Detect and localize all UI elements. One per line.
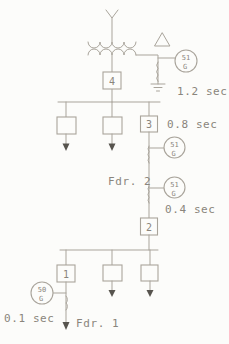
breaker-2-label: 2 (146, 222, 152, 233)
wye-icon (106, 10, 118, 42)
relay-fdr2-upper-ground: G (171, 150, 175, 158)
relay-fdr2-upper-device: 51 (170, 141, 178, 149)
down-arrow-icon (109, 144, 116, 152)
neutral-conductor (136, 55, 158, 84)
relay-xfmr-neutral-device: 51 (182, 54, 190, 62)
one-line-diagram: 51 G 1.2 sec 4 3 0.8 sec 51 G Fdr. 2 51 … (0, 0, 229, 344)
breaker-3-label: 3 (146, 119, 152, 130)
relay-fdr2-lower-device: 51 (170, 181, 178, 189)
down-arrow-icon (63, 144, 70, 152)
lower-load1-box (103, 265, 122, 281)
relay-fdr1-ground: G (39, 295, 43, 303)
lower-load2-box (141, 265, 158, 281)
relay-xfmr-neutral-time: 1.2 sec (177, 85, 228, 98)
relay-xfmr-neutral-ground: G (183, 63, 187, 71)
down-arrow-icon (147, 290, 154, 297)
relay-fdr2-lower-time: 0.4 sec (165, 203, 216, 216)
relay-fdr2-lower-ground: G (171, 190, 175, 198)
transformer-secondary-winding (88, 49, 136, 55)
down-arrow-icon (109, 290, 116, 297)
feeder2-label: Fdr. 2 (108, 175, 151, 188)
breaker-1-label: 1 (63, 269, 69, 280)
upper-load2-box (103, 117, 122, 134)
down-arrow-icon (63, 322, 70, 330)
diagram-canvas: 51 G 1.2 sec 4 3 0.8 sec 51 G Fdr. 2 51 … (0, 0, 229, 344)
transformer-primary-winding (88, 42, 136, 48)
upper-load1-box (57, 117, 76, 134)
feeder1-label: Fdr. 1 (76, 317, 119, 330)
relay-fdr1-time: 0.1 sec (4, 312, 55, 325)
ground-icon (151, 84, 165, 91)
relay-fdr1-device: 50 (38, 286, 46, 294)
breaker-4-label: 4 (109, 76, 115, 87)
delta-icon (155, 33, 170, 46)
relay-fdr2-upper-time: 0.8 sec (167, 118, 218, 131)
